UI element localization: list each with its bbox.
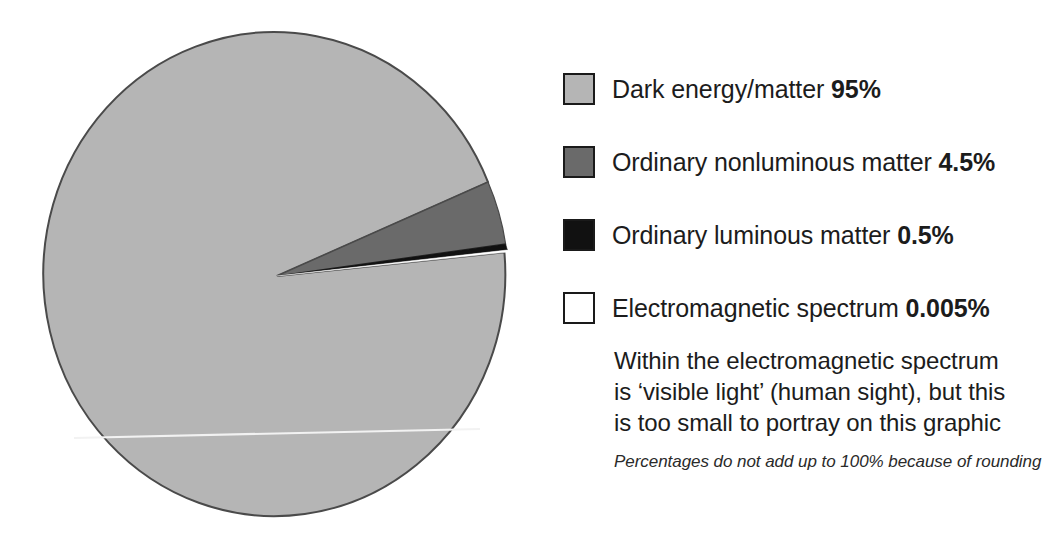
- legend-value: 4.5%: [939, 148, 996, 176]
- legend-item-em-spectrum[interactable]: Electromagnetic spectrum 0.005%: [563, 290, 990, 326]
- legend-text: Ordinary luminous matter: [612, 221, 890, 249]
- legend-label-dark-energy: Dark energy/matter 95%: [612, 74, 881, 104]
- annotation-note: Within the electromagnetic spectrum is ‘…: [614, 345, 1034, 438]
- legend-panel: Dark energy/matter 95% Ordinary nonlumin…: [563, 0, 1058, 538]
- swatch-dark-energy: [563, 73, 595, 105]
- swatch-luminous: [563, 219, 595, 251]
- swatch-em-spectrum: [563, 292, 595, 324]
- legend-value: 0.5%: [897, 221, 954, 249]
- annotation-line-2: is ‘visible light’ (human sight), but th…: [614, 376, 1034, 407]
- legend-text: Dark energy/matter: [612, 75, 824, 103]
- legend-value: 0.005%: [905, 294, 989, 322]
- pie-chart-svg: [0, 0, 540, 538]
- swatch-nonluminous: [563, 146, 595, 178]
- legend-text: Ordinary nonluminous matter: [612, 148, 932, 176]
- legend-item-luminous[interactable]: Ordinary luminous matter 0.5%: [563, 217, 954, 253]
- pie-chart-area: [0, 0, 540, 538]
- legend-label-em-spectrum: Electromagnetic spectrum 0.005%: [612, 293, 990, 323]
- legend-text: Electromagnetic spectrum: [612, 294, 899, 322]
- annotation-line-1: Within the electromagnetic spectrum: [614, 345, 1034, 376]
- legend-value: 95%: [831, 75, 881, 103]
- pie-slice-dark-energy: [43, 32, 505, 516]
- legend-item-dark-energy[interactable]: Dark energy/matter 95%: [563, 71, 881, 107]
- legend-label-luminous: Ordinary luminous matter 0.5%: [612, 220, 954, 250]
- annotation-line-3: is too small to portray on this graphic: [614, 407, 1034, 438]
- legend-label-nonluminous: Ordinary nonluminous matter 4.5%: [612, 147, 995, 177]
- rounding-footnote: Percentages do not add up to 100% becaus…: [614, 452, 1041, 472]
- legend-item-nonluminous[interactable]: Ordinary nonluminous matter 4.5%: [563, 144, 995, 180]
